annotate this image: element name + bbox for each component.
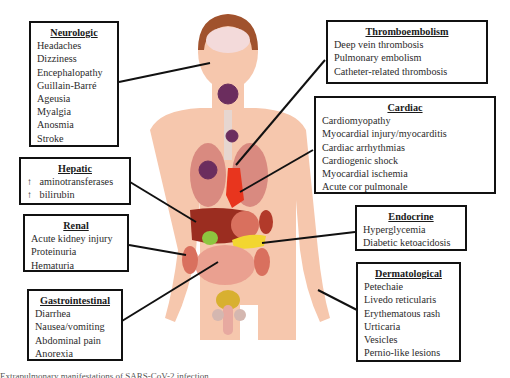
neurologic-item: Headaches [37, 39, 111, 52]
thromboembolism-item: Deep vein thrombosis [334, 38, 480, 51]
hepatic-title: Hepatic [27, 162, 123, 175]
neurologic-title: Neurologic [37, 26, 111, 39]
neurologic-item: Myalgia [37, 105, 111, 118]
gastrointestinal-title: Gastrointestinal [35, 294, 115, 307]
gallbladder [202, 231, 218, 245]
figure-caption: Extrapulmonary manifestations of SARS-Co… [0, 371, 209, 378]
up-arrow-icon: ↑ [27, 175, 37, 188]
dermatological-title: Dermatological [364, 267, 453, 280]
cardiac-item: Acute cor pulmonale [322, 180, 488, 193]
cardiac-title: Cardiac [322, 101, 488, 114]
neurologic-box: Neurologic Headaches Dizziness Encephalo… [29, 21, 119, 147]
dermatological-box: Dermatological Petechaie Livedo reticula… [356, 262, 461, 362]
gastrointestinal-item: Abdominal pain [35, 334, 115, 347]
dermatological-item: Vesicles [364, 333, 453, 346]
renal-box: Renal Acute kidney injury Proteinuria He… [23, 214, 129, 272]
cardiac-item: Myocardial injury/myocarditis [322, 127, 488, 140]
dermatological-item: Urticaria [364, 320, 453, 333]
neurologic-item: Dizziness [37, 52, 111, 65]
dermatological-item: Pernio-like lesions [364, 346, 453, 359]
renal-item: Acute kidney injury [31, 232, 121, 245]
neurologic-item: Guillain-Barré [37, 79, 111, 92]
hepatic-item: bilirubin [40, 189, 75, 200]
renal-item: Proteinuria [31, 245, 121, 258]
brain [206, 27, 250, 53]
thromboembolism-item: Catheter-related thrombosis [334, 65, 480, 78]
gastrointestinal-item: Anorexia [35, 347, 115, 360]
cardiac-box: Cardiac Cardiomyopathy Myocardial injury… [314, 96, 496, 194]
dermatological-item: Livedo reticularis [364, 293, 453, 306]
endocrine-item: Diabetic ketoacidosis [363, 236, 459, 249]
endocrine-title: Endocrine [363, 210, 459, 223]
neurologic-item: Anosmia [37, 118, 111, 131]
endocrine-box: Endocrine Hyperglycemia Diabetic ketoaci… [355, 205, 467, 251]
endocrine-item: Hyperglycemia [363, 223, 459, 236]
intestines [195, 245, 255, 285]
gastrointestinal-box: Gastrointestinal Diarrhea Nausea/vomitin… [27, 289, 123, 361]
cardiac-item: Cardiogenic shock [322, 154, 488, 167]
cardiac-item: Myocardial ischemia [322, 167, 488, 180]
renal-title: Renal [31, 219, 121, 232]
cardiac-item: Cardiomyopathy [322, 114, 488, 127]
dermatological-item: Petechaie [364, 280, 453, 293]
thromboembolism-title: Thromboembolism [334, 25, 480, 38]
neurologic-item: Stroke [37, 132, 111, 145]
gastrointestinal-item: Diarrhea [35, 307, 115, 320]
thromboembolism-item: Pulmonary embolism [334, 51, 480, 64]
thromboembolism-box: Thromboembolism Deep vein thrombosis Pul… [326, 20, 488, 84]
renal-item: Hematuria [31, 259, 121, 272]
gastrointestinal-item: Nausea/vomiting [35, 320, 115, 333]
dermatological-item: Erythematous rash [364, 307, 453, 320]
up-arrow-icon: ↑ [27, 188, 37, 201]
hepatic-box: Hepatic ↑ aminotransferases ↑ bilirubin [19, 157, 131, 205]
neurologic-item: Encephalopathy [37, 66, 111, 79]
cardiac-item: Cardiac arrhythmias [322, 141, 488, 154]
hepatic-item: aminotransferases [40, 176, 114, 187]
neurologic-item: Ageusia [37, 92, 111, 105]
